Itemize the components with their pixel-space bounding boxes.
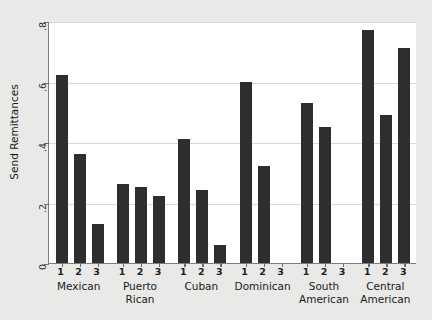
x-axis-subgroup-label: 3 [334, 266, 350, 277]
x-axis-subgroup-label: 3 [273, 266, 289, 277]
group-label-line: Cuban [171, 280, 232, 293]
y-axis-tick-label: .6 [37, 83, 48, 92]
x-axis-subgroup-label: 1 [175, 266, 191, 277]
x-axis-subgroup-label: 2 [71, 266, 87, 277]
bar [178, 139, 190, 263]
gridline [49, 143, 416, 144]
plot-frame: 0.2.4.6.8 [48, 22, 416, 264]
y-axis-tick-label: .8 [37, 22, 48, 31]
gridline [49, 83, 416, 84]
x-axis-subgroup-label: 3 [150, 266, 166, 277]
x-axis-group-label: Cuban [171, 280, 232, 293]
x-axis-subgroup-label: 3 [89, 266, 105, 277]
y-axis-tick-label: 0 [37, 264, 48, 270]
x-axis-subgroup-label: 1 [298, 266, 314, 277]
y-axis-title-label: Send Remittances [8, 84, 20, 179]
x-axis-subgroup-label: 3 [395, 266, 411, 277]
bar [240, 82, 252, 264]
group-label-line: Central [355, 280, 416, 293]
bar [362, 30, 374, 263]
x-axis-subgroup-label: 1 [114, 266, 130, 277]
bar [153, 196, 165, 263]
bar [74, 154, 86, 263]
x-axis-subgroup-label: 2 [132, 266, 148, 277]
x-axis-group-label: Puerto Rican [109, 280, 170, 306]
plot-area [49, 22, 416, 263]
x-axis-group-label: Dominican [232, 280, 293, 293]
y-axis-tick-label: .2 [37, 204, 48, 213]
bar [56, 75, 68, 263]
x-axis-subgroup-label: 2 [316, 266, 332, 277]
x-axis-subgroup-label: 2 [193, 266, 209, 277]
gridline [49, 22, 416, 23]
group-label-line: Dominican [232, 280, 293, 293]
y-axis-tick-label: .4 [37, 143, 48, 152]
x-axis-group-label: Mexican [48, 280, 109, 293]
x-axis-subgroup-label: 3 [211, 266, 227, 277]
bar [214, 245, 226, 263]
group-label-line: South [293, 280, 354, 293]
x-axis-subgroup-label: 1 [359, 266, 375, 277]
group-label-line: American [293, 293, 354, 306]
group-label-line: Mexican [48, 280, 109, 293]
bar [196, 190, 208, 263]
group-label-line: American [355, 293, 416, 306]
bar [398, 48, 410, 263]
gridline [49, 204, 416, 205]
bar [117, 184, 129, 263]
bar [258, 166, 270, 263]
bar [135, 187, 147, 263]
x-axis-subgroup-label: 2 [377, 266, 393, 277]
x-axis-subgroup-label: 1 [53, 266, 69, 277]
chart-figure: Send Remittances 0.2.4.6.8 123Mexican123… [0, 0, 432, 320]
x-axis-subgroup-label: 1 [237, 266, 253, 277]
x-axis-subgroup-label: 2 [255, 266, 271, 277]
bar [319, 127, 331, 263]
y-axis-title: Send Remittances [6, 0, 22, 264]
bar [92, 224, 104, 263]
x-axis-group-label: SouthAmerican [293, 280, 354, 306]
bar [380, 115, 392, 263]
x-axis-group-label: CentralAmerican [355, 280, 416, 306]
group-label-line: Puerto Rican [109, 280, 170, 306]
bar [301, 103, 313, 263]
